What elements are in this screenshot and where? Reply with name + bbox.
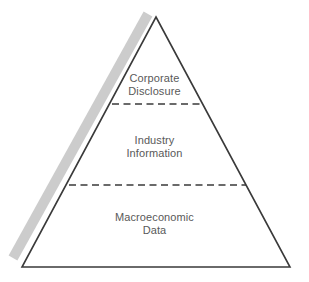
pyramid-diagram: Corporate Disclosure Industry Informatio… [0, 0, 309, 282]
pyramid-outline [22, 17, 290, 267]
pyramid-graphic [0, 0, 309, 282]
